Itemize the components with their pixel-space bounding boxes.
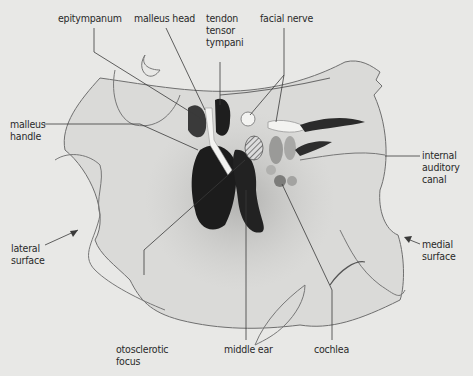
facial-nerve-section — [241, 112, 255, 126]
label-otosclerotic-focus: otosclerotic focus — [116, 343, 168, 367]
label-malleus-head: malleus head — [134, 12, 195, 24]
label-epitympanum: epitympanum — [58, 12, 122, 24]
label-tendon-tensor-tympani: tendon tensor tympani — [206, 12, 244, 48]
label-middle-ear: middle ear — [224, 343, 273, 355]
label-internal-auditory-canal: internal auditory canal — [422, 149, 460, 185]
label-medial-surface: medial surface — [422, 238, 456, 262]
label-lateral-surface: lateral surface — [11, 242, 45, 266]
otosclerotic-focus — [245, 136, 263, 160]
label-facial-nerve: facial nerve — [260, 12, 313, 24]
label-malleus-handle: malleus handle — [10, 118, 46, 142]
anatomy-illustration — [0, 0, 473, 376]
label-cochlea: cochlea — [314, 343, 349, 355]
cochlea-section — [274, 175, 286, 187]
ear-anatomy-diagram: epitympanum malleus head tendon tensor t… — [0, 0, 473, 376]
